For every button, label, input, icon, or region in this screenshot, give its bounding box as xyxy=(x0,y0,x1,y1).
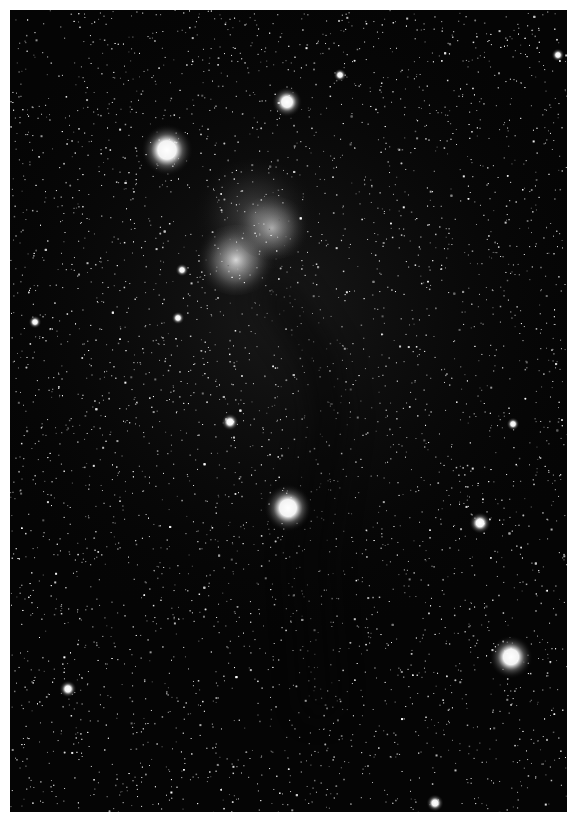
astronomical-image xyxy=(10,10,567,812)
star-field-canvas xyxy=(10,10,567,812)
